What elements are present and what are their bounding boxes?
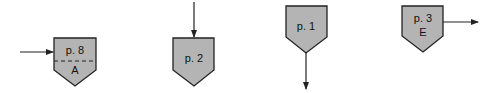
connector-p1: p. 1: [286, 6, 327, 89]
sub-label: E: [419, 26, 426, 38]
page-label: p. 2: [185, 52, 203, 64]
page-label: p. 8: [66, 44, 84, 56]
connector-p3: p. 3 E: [402, 6, 478, 52]
sub-label: A: [71, 64, 79, 76]
connector-p2: p. 2: [173, 2, 214, 86]
connector-p8: p. 8 A: [20, 38, 96, 86]
connector-diagram: p. 8 A p. 2 p. 1 p. 3 E: [0, 0, 498, 93]
page-label: p. 1: [297, 20, 315, 32]
page-label: p. 3: [414, 12, 432, 24]
